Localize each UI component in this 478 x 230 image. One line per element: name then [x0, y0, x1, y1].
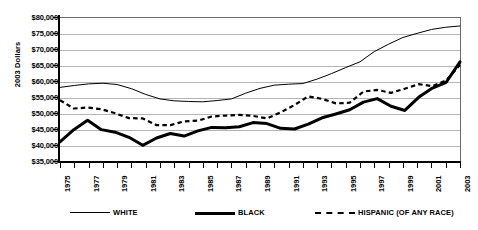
x-axis-tick	[403, 163, 404, 168]
x-axis-tick-label: 1995	[349, 176, 358, 192]
x-axis-tick-label: 1977	[92, 176, 101, 192]
x-axis-tick-label: 2001	[434, 176, 443, 192]
x-axis-tick	[146, 163, 147, 168]
x-axis-tick	[246, 163, 247, 168]
x-axis-tick	[217, 163, 218, 168]
x-axis-tick-label: 1993	[320, 176, 329, 192]
x-axis-tick-label: 1979	[120, 176, 129, 192]
x-axis-tick-label: 1985	[206, 176, 215, 192]
x-axis-tick	[360, 163, 361, 168]
y-axis-tick	[53, 97, 59, 98]
x-axis-tick	[189, 163, 190, 168]
x-axis-tick	[374, 163, 375, 168]
x-axis-tick-label: 1975	[63, 176, 72, 192]
x-axis-tick	[160, 163, 161, 168]
series-line-hispanic	[60, 65, 460, 125]
legend-label: BLACK	[238, 208, 265, 217]
income-by-race-line-chart: 2003 Dollars $80,000$75,000$70,000$65,00…	[0, 0, 478, 230]
legend-swatch-icon	[195, 207, 235, 217]
x-axis-tick	[74, 163, 75, 168]
x-axis-tick	[174, 163, 175, 168]
y-axis-tick	[53, 65, 59, 66]
chart-legend: WHITEBLACKHISPANIC (OF ANY RACE)	[0, 205, 478, 225]
x-axis-tick-label: 1997	[377, 176, 386, 192]
x-axis-tick	[417, 163, 418, 168]
legend-item: WHITE	[70, 205, 138, 219]
x-axis-tick	[289, 163, 290, 168]
y-axis-tick	[53, 17, 59, 18]
x-axis-tick	[431, 163, 432, 168]
x-axis-tick	[117, 163, 118, 168]
x-axis-tick	[103, 163, 104, 168]
x-axis-tick-label: 1989	[263, 176, 272, 192]
x-axis-tick-label: 2003	[463, 176, 472, 192]
x-axis-tick-labels: 1975197719791981198319851987198919911993…	[0, 168, 478, 202]
legend-item: HISPANIC (OF ANY RACE)	[315, 205, 454, 219]
x-axis-tick	[89, 163, 90, 168]
y-axis-tick	[53, 161, 59, 162]
x-axis-tick	[231, 163, 232, 168]
legend-swatch-icon	[315, 207, 355, 217]
legend-swatch-icon	[70, 207, 110, 217]
y-axis-tick	[53, 33, 59, 34]
legend-label: WHITE	[113, 208, 138, 217]
y-axis-tick	[53, 145, 59, 146]
legend-item: BLACK	[195, 205, 265, 219]
y-axis-tick	[53, 81, 59, 82]
x-axis-tick	[131, 163, 132, 168]
legend-label: HISPANIC (OF ANY RACE)	[358, 208, 454, 217]
x-axis-tick	[317, 163, 318, 168]
x-axis-tick-label: 1981	[149, 176, 158, 192]
x-axis-tick	[60, 163, 61, 168]
x-axis-tick	[460, 163, 461, 168]
x-axis-tick-label: 1991	[292, 176, 301, 192]
x-axis-tick	[389, 163, 390, 168]
x-axis-tick-label: 1983	[177, 176, 186, 192]
x-axis-tick	[346, 163, 347, 168]
x-axis-tick	[203, 163, 204, 168]
series-line-black	[60, 62, 460, 146]
x-axis-tick	[260, 163, 261, 168]
x-axis-tick-label: 1987	[234, 176, 243, 192]
y-axis-tick	[53, 113, 59, 114]
x-axis-tick	[303, 163, 304, 168]
x-axis-tick-label: 1999	[406, 176, 415, 192]
y-axis-tick	[53, 49, 59, 50]
x-axis-tick	[274, 163, 275, 168]
x-axis-tick	[446, 163, 447, 168]
x-axis-tick	[331, 163, 332, 168]
y-axis-tick	[53, 129, 59, 130]
